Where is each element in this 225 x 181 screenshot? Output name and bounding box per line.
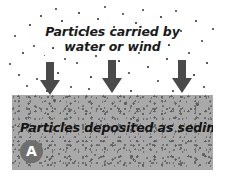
sediment-grain <box>185 142 187 144</box>
sediment-grain <box>108 163 110 165</box>
sediment-grain <box>35 106 37 108</box>
sediment-grain <box>106 111 108 113</box>
sediment-grain <box>112 142 114 144</box>
suspended-particle <box>76 62 78 64</box>
suspended-particle <box>130 90 132 92</box>
sediment-layer: Particles deposited as sediment A <box>12 95 213 170</box>
suspended-particle <box>195 20 197 22</box>
suspended-particle <box>128 72 130 74</box>
sediment-grain <box>196 103 199 106</box>
suspended-particle <box>26 85 28 87</box>
sediment-grain <box>70 109 72 111</box>
suspended-particle <box>97 18 99 20</box>
sediment-grain <box>88 101 90 103</box>
suspended-particle <box>36 78 38 80</box>
suspended-particle <box>40 15 42 17</box>
suspended-particle <box>61 20 63 22</box>
suspended-particle <box>55 8 57 10</box>
suspended-particle <box>95 55 97 57</box>
suspended-particle <box>203 86 205 88</box>
suspended-particle <box>193 74 195 76</box>
sediment-grain <box>94 154 96 156</box>
sediment-grain <box>50 164 52 166</box>
deposition-diagram: Particles carried by water or wind <box>0 0 225 181</box>
suspended-particle <box>160 16 162 18</box>
transport-caption: Particles carried by water or wind <box>0 24 225 54</box>
suspended-particle <box>78 12 80 14</box>
suspended-particle <box>9 63 11 65</box>
sediment-grain <box>204 117 206 119</box>
sediment-grain <box>76 141 78 143</box>
sediment-grain <box>53 99 56 102</box>
transport-caption-line-2: water or wind <box>0 39 225 54</box>
suspended-particle <box>90 76 92 78</box>
deposition-arrow-center-icon <box>101 60 123 94</box>
deposition-arrow-right-icon <box>171 60 193 94</box>
sediment-grain <box>149 143 151 145</box>
sediment-grain <box>25 117 27 119</box>
suspended-particle <box>157 80 159 82</box>
deposition-arrow-left-icon <box>39 62 61 96</box>
sediment-grain <box>202 153 205 156</box>
suspended-particle <box>206 62 208 64</box>
sediment-grain <box>20 136 22 138</box>
suspended-particle <box>88 88 90 90</box>
transport-caption-line-1: Particles carried by <box>45 24 180 39</box>
sediment-grain <box>208 162 210 164</box>
panel-badge: A <box>20 140 43 163</box>
sediment-grain <box>124 102 127 105</box>
suspended-particle <box>18 74 20 76</box>
suspended-particle <box>104 6 106 8</box>
suspended-particle <box>64 58 66 60</box>
suspended-particle <box>147 66 149 68</box>
sediment-caption: Particles deposited as sediment <box>20 121 213 135</box>
suspended-particle <box>166 58 168 60</box>
suspended-particle <box>122 13 124 15</box>
suspended-particle <box>44 55 45 56</box>
sediment-grain <box>167 156 169 158</box>
suspended-particle <box>70 86 72 88</box>
sediment-grain <box>72 162 74 164</box>
suspended-particle <box>142 9 144 11</box>
sediment-grain <box>161 100 163 102</box>
sediment-grain <box>178 163 180 165</box>
suspended-particle <box>175 10 177 12</box>
sediment-grain <box>179 110 181 112</box>
sediment-grain <box>143 108 145 110</box>
sediment-grain <box>58 153 60 155</box>
sediment-grain <box>142 165 144 167</box>
sediment-grain <box>18 100 20 102</box>
sediment-grain <box>130 155 133 158</box>
